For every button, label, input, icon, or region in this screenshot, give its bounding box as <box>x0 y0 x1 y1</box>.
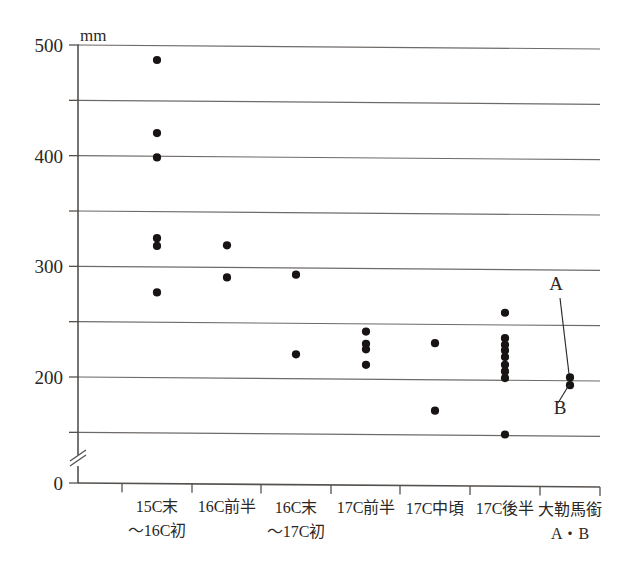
data-point <box>362 345 370 353</box>
data-point <box>292 271 300 279</box>
data-point <box>153 153 161 161</box>
y-tick-label-0: 0 <box>54 473 64 494</box>
x-category-label-6: 大勒馬銜 <box>538 501 602 518</box>
y-tick-label-400: 400 <box>35 146 64 167</box>
x-category-label-4: 17C中頃 <box>406 500 465 517</box>
data-point <box>501 309 509 317</box>
annotation-label-A: A <box>549 273 563 294</box>
x-category-label-5: 17C後半 <box>476 500 535 517</box>
gridline-150 <box>78 432 600 436</box>
x-category-label-0: 15C末 <box>136 498 179 515</box>
gridline-350 <box>78 211 600 215</box>
data-point <box>362 361 370 369</box>
y-tick-label-group: 5004003002000 <box>35 35 64 494</box>
x-category-label-2: 16C末 <box>275 499 318 516</box>
y-tick-label-200: 200 <box>35 367 64 388</box>
y-axis-unit-label: mm <box>80 26 106 45</box>
x-category-sublabel-6: A・B <box>551 525 589 542</box>
gridline-500 <box>78 45 600 49</box>
data-point <box>501 353 509 361</box>
data-point <box>362 328 370 336</box>
annotation-group: AB <box>549 273 569 418</box>
data-point-group <box>153 56 574 439</box>
data-point <box>223 273 231 281</box>
annotation-leader-A <box>560 298 569 374</box>
scatter-chart-figure: 5004003002000 mm 15C末～16C初16C前半16C末～17C初… <box>0 0 632 579</box>
x-axis-line <box>78 483 600 487</box>
x-category-sublabel-0: ～16C初 <box>128 522 187 539</box>
x-category-sublabel-2: ～17C初 <box>267 523 326 540</box>
data-point <box>153 234 161 242</box>
data-point <box>153 288 161 296</box>
gridline-450 <box>78 100 600 104</box>
x-category-label-group: 15C末～16C初16C前半16C末～17C初17C前半17C中頃17C後半大勒… <box>128 498 602 542</box>
axis-group <box>70 45 600 487</box>
data-point <box>153 242 161 250</box>
y-tick-label-500: 500 <box>35 35 64 56</box>
data-point <box>153 56 161 64</box>
data-point <box>431 339 439 347</box>
data-point <box>501 374 509 382</box>
data-point <box>566 373 574 381</box>
gridline-200 <box>78 377 600 381</box>
chart-canvas: 5004003002000 mm 15C末～16C初16C前半16C末～17C初… <box>0 0 632 579</box>
data-point <box>292 350 300 358</box>
x-category-label-1: 16C前半 <box>198 498 257 515</box>
data-point <box>153 129 161 137</box>
data-point <box>431 407 439 415</box>
data-point <box>223 241 231 249</box>
gridline-250 <box>78 322 600 326</box>
y-tick-label-300: 300 <box>35 256 64 277</box>
data-point <box>501 430 509 438</box>
x-category-label-3: 17C前半 <box>337 499 396 516</box>
gridline-300 <box>78 266 600 270</box>
annotation-label-B: B <box>554 397 567 418</box>
